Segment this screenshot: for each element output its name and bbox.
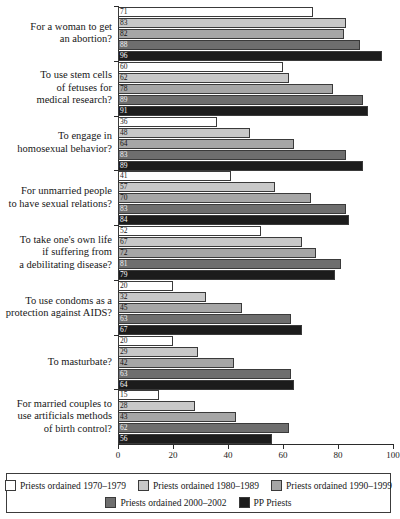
bar [118, 412, 236, 422]
category-label-line: To use condoms as a [0, 295, 112, 308]
legend-row-secondary: Priests ordained 2000–2002PP Priests [7, 494, 390, 511]
category-axis-tick [114, 6, 119, 7]
bar [118, 95, 363, 105]
bar-row: 78 [118, 84, 393, 95]
legend-item[interactable]: Priests ordained 1980–1989 [138, 480, 259, 491]
bar [118, 117, 217, 127]
bar [118, 434, 272, 444]
legend-label: Priests ordained 1970–1979 [20, 481, 126, 491]
bar-value-label: 63 [120, 314, 128, 324]
legend-item[interactable]: PP Priests [239, 497, 292, 508]
bar-value-label: 48 [120, 128, 128, 138]
bar-value-label: 83 [120, 150, 128, 160]
bar-row: 72 [118, 248, 393, 259]
category-label-line: To take one's own life [0, 234, 112, 247]
category-label: To take one's own lifeif suffering froma… [0, 234, 112, 272]
bar [118, 369, 291, 379]
category-axis-tick [114, 225, 119, 226]
bar-value-label: 32 [120, 292, 128, 302]
category-label-line: homosexual behavior? [0, 143, 112, 156]
bar-value-label: 79 [120, 270, 128, 280]
legend-item[interactable]: Priests ordained 1970–1979 [5, 480, 126, 491]
bar-value-label: 83 [120, 204, 128, 214]
bar-row: 88 [118, 40, 393, 51]
bar [118, 40, 360, 50]
bar [118, 380, 294, 390]
bar [118, 237, 302, 247]
bar-row: 71 [118, 7, 393, 18]
bar-group: 2029426364 [118, 336, 393, 391]
category-label-line: use artificials methods [0, 410, 112, 423]
bar [118, 423, 289, 433]
bar-value-label: 71 [120, 7, 128, 17]
bar-row: 63 [118, 369, 393, 380]
category-label-line: of birth control? [0, 423, 112, 436]
category-label-line: protection against AIDS? [0, 307, 112, 320]
bar-value-label: 78 [120, 84, 128, 94]
legend-label: Priests ordained 2000–2002 [120, 498, 226, 508]
bar-row: 15 [118, 390, 393, 401]
legend-swatch [138, 480, 149, 491]
bar-value-label: 81 [120, 259, 128, 269]
bar-row: 62 [118, 423, 393, 434]
x-tick-label: 80 [334, 450, 343, 460]
bar-value-label: 20 [120, 336, 128, 346]
bar-value-label: 64 [120, 139, 128, 149]
bar-value-label: 64 [120, 380, 128, 390]
bar-value-label: 84 [120, 215, 128, 225]
category-label: For married couples touse artificials me… [0, 398, 112, 436]
bar-row: 20 [118, 281, 393, 292]
bar [118, 193, 311, 203]
bar-row: 63 [118, 314, 393, 325]
bar [118, 215, 349, 225]
bar-value-label: 36 [120, 117, 128, 127]
bar-row: 64 [118, 139, 393, 150]
x-tick [228, 444, 229, 449]
bar [118, 171, 231, 181]
legend-item[interactable]: Priests ordained 1990–1999 [271, 480, 392, 491]
bar [118, 29, 344, 39]
category-label: To use stem cellsof fetuses formedical r… [0, 69, 112, 107]
bar [118, 18, 346, 28]
bar-group: 2032456367 [118, 281, 393, 336]
x-tick-label: 0 [116, 450, 121, 460]
legend-item[interactable]: Priests ordained 2000–2002 [105, 497, 226, 508]
category-label-line: an abortion? [0, 33, 112, 46]
category-axis-tick [114, 335, 119, 336]
legend-swatch [239, 497, 250, 508]
bar-row: 57 [118, 182, 393, 193]
bar-row: 67 [118, 325, 393, 336]
bar-value-label: 63 [120, 369, 128, 379]
bar-group: 1528436256 [118, 390, 393, 445]
legend-swatch [271, 480, 282, 491]
category-axis-tick [114, 280, 119, 281]
bar-value-label: 20 [120, 281, 128, 291]
bar-row: 83 [118, 204, 393, 215]
bar-row: 81 [118, 259, 393, 270]
x-tick [338, 444, 339, 449]
bar-row: 41 [118, 171, 393, 182]
bar-row: 48 [118, 128, 393, 139]
bar [118, 182, 275, 192]
bar-value-label: 89 [120, 161, 128, 171]
x-tick-label: 100 [386, 450, 400, 460]
bar [118, 106, 368, 116]
bar-value-label: 43 [120, 412, 128, 422]
bar-row: 60 [118, 62, 393, 73]
legend: Priests ordained 1970–1979Priests ordain… [6, 473, 391, 513]
bar-row: 20 [118, 336, 393, 347]
legend-swatch [5, 480, 16, 491]
category-label-line: To use stem cells [0, 69, 112, 82]
bar-row: 52 [118, 226, 393, 237]
bar [118, 325, 302, 335]
bar-value-label: 56 [120, 434, 128, 444]
bar-row: 28 [118, 401, 393, 412]
bar [118, 7, 313, 17]
category-label: To use condoms as aprotection against AI… [0, 295, 112, 320]
x-tick-label: 20 [169, 450, 178, 460]
legend-label: Priests ordained 1980–1989 [153, 481, 259, 491]
x-tick-label: 60 [279, 450, 288, 460]
bar [118, 314, 291, 324]
category-label-line: For married couples to [0, 398, 112, 411]
bar [118, 51, 382, 61]
